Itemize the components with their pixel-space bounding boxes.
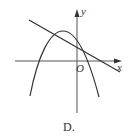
y-axis-arrow-icon	[75, 9, 80, 17]
origin-label: O	[76, 63, 84, 74]
y-axis-label: y	[81, 6, 86, 17]
function-graph-figure: y x O D.	[0, 0, 131, 136]
x-axis-label: x	[117, 62, 122, 73]
graph-canvas	[0, 0, 131, 136]
option-caption: D.	[63, 121, 75, 133]
linear-function-line	[29, 20, 120, 72]
